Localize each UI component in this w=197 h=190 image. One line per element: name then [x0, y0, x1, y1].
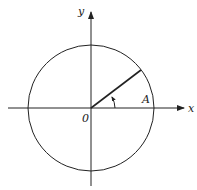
- unit-circle-diagram: [0, 0, 197, 190]
- point-a-label: A: [142, 94, 150, 105]
- y-axis-label: y: [78, 6, 84, 17]
- origin-label: 0: [82, 113, 89, 124]
- radius-line: [91, 70, 141, 108]
- x-axis-label: x: [188, 103, 194, 114]
- angle-arc: [112, 97, 115, 108]
